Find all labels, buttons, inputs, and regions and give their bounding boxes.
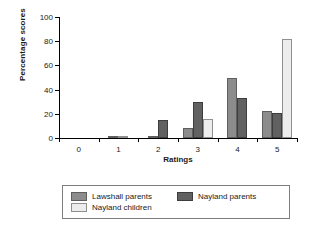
x-tick-mark: [297, 138, 298, 142]
legend-item[interactable]: Nayland parents: [177, 192, 283, 201]
bar-group: [218, 17, 258, 138]
x-tick-label: 5: [275, 145, 279, 154]
bar: [148, 136, 158, 138]
legend-swatch-icon: [177, 192, 193, 201]
y-tick-label: 100: [40, 13, 53, 22]
legend-swatch-icon: [71, 203, 87, 212]
plot-area: 020406080100 012345: [59, 17, 297, 139]
bar: [227, 78, 237, 139]
x-tick-label: 2: [156, 145, 160, 154]
bar-group: [257, 17, 297, 138]
bar: [272, 113, 282, 138]
x-axis-title: Ratings: [59, 155, 297, 164]
legend-label: Nayland children: [92, 203, 152, 212]
bar: [237, 98, 247, 138]
bar-group: [59, 17, 99, 138]
x-tick-label: 3: [196, 145, 200, 154]
chart-legend: Lawshall parentsNayland parentsNayland c…: [62, 185, 290, 219]
x-tick-mark: [218, 138, 219, 142]
y-tick-label: 40: [44, 85, 53, 94]
legend-label: Nayland parents: [198, 192, 256, 201]
bar: [183, 128, 193, 138]
y-tick-label: 20: [44, 109, 53, 118]
bar: [118, 136, 128, 138]
x-tick-mark: [99, 138, 100, 142]
legend-swatch-icon: [71, 192, 87, 201]
bar: [203, 119, 213, 138]
x-tick-mark: [257, 138, 258, 142]
y-tick-label: 80: [44, 37, 53, 46]
bar: [158, 120, 168, 138]
bar: [262, 111, 272, 138]
x-tick-mark: [178, 138, 179, 142]
x-tick-mark: [59, 138, 60, 142]
y-tick-label: 60: [44, 61, 53, 70]
x-tick-label: 0: [77, 145, 81, 154]
x-tick-label: 1: [116, 145, 120, 154]
bar: [282, 39, 292, 138]
x-tick-mark: [138, 138, 139, 142]
x-tick-label: 4: [235, 145, 239, 154]
bar: [193, 102, 203, 138]
y-axis-title: Percentage scores: [18, 0, 27, 100]
bar-group: [178, 17, 218, 138]
bar-chart-figure: Percentage scores 020406080100 012345 Ra…: [0, 0, 318, 237]
bar: [108, 136, 118, 138]
legend-item[interactable]: Nayland children: [71, 203, 177, 212]
bar-group: [138, 17, 178, 138]
bar-group: [99, 17, 139, 138]
y-tick-label: 0: [49, 134, 53, 143]
legend-item[interactable]: Lawshall parents: [71, 192, 177, 201]
legend-label: Lawshall parents: [92, 192, 152, 201]
